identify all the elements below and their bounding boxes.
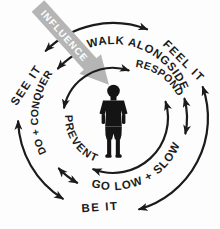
label-prevent-text: PREVENT — [63, 115, 101, 164]
label-go-low-slow-text: GO LOW + SLOW — [90, 140, 182, 192]
influence-diagram-canvas: INFLUENCE WALK ALONGSIDE RESPOND PREVENT… — [0, 0, 220, 229]
influence-diagram: INFLUENCE WALK ALONGSIDE RESPOND PREVENT… — [0, 0, 220, 229]
child-silhouette-icon — [100, 85, 128, 158]
label-be-it: BE IT — [81, 200, 119, 215]
child-shorts — [105, 127, 122, 140]
label-go-low-slow: GO LOW + SLOW — [90, 140, 182, 192]
middle-arc-bottom-left — [59, 169, 77, 183]
middle-arc-right — [185, 99, 188, 134]
influence-label: INFLUENCE — [39, 8, 91, 64]
label-prevent: PREVENT — [63, 115, 101, 164]
